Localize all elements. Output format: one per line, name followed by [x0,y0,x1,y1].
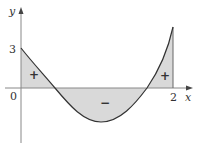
positive-sign-left: + [29,68,39,82]
x-tick-label: 2 [170,91,177,104]
y-tick-label: 3 [9,43,16,56]
area-chart: y x 0 3 2 + − + [0,0,199,157]
negative-sign-middle: − [100,96,110,110]
y-axis-label: y [8,5,16,18]
y-axis-arrow-icon [19,7,24,14]
positive-sign-right: + [160,69,170,83]
x-axis-label: x [185,91,192,104]
origin-label: 0 [10,90,17,103]
x-axis-arrow-icon [186,86,193,91]
